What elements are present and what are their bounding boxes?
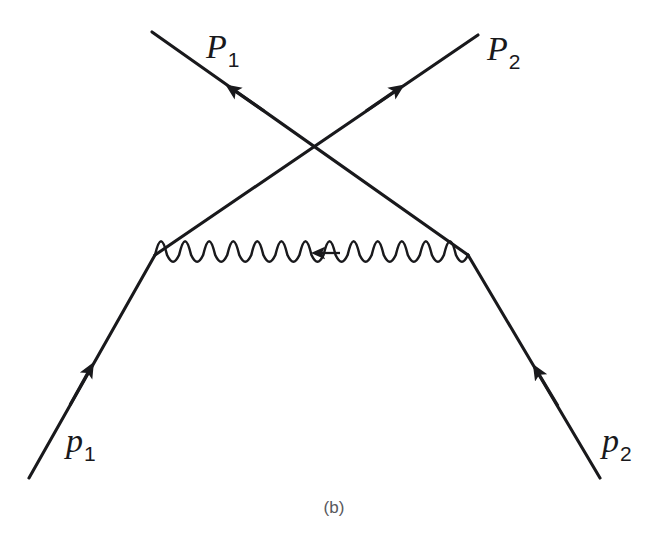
momentum-label-P2-subscript: 2 xyxy=(509,50,521,73)
momentum-label-p1-subscript: 1 xyxy=(84,442,96,465)
fermion-line-P1 xyxy=(152,32,468,255)
momentum-label-p2-base: p xyxy=(602,422,619,459)
arrowhead-p1 xyxy=(70,369,90,405)
momentum-label-P1-outgoing: P1 xyxy=(206,30,238,64)
panel-caption: (b) xyxy=(0,498,668,518)
momentum-label-P2-outgoing: P2 xyxy=(487,32,519,66)
photon-propagator xyxy=(155,241,468,262)
arrowhead-P2 xyxy=(366,89,398,111)
direction-arrowheads xyxy=(70,89,558,406)
fermion-line-p2 xyxy=(468,255,600,478)
feynman-diagram-canvas xyxy=(0,0,668,546)
momentum-label-p1-incoming: p1 xyxy=(66,424,95,458)
fermion-lines xyxy=(29,32,600,478)
momentum-label-p1-base: p xyxy=(66,422,83,459)
momentum-label-P1-subscript: 1 xyxy=(228,48,240,71)
feynman-diagram-figure: P1 P2 p1 p2 (b) xyxy=(0,0,668,546)
arrowhead-P1 xyxy=(232,89,264,111)
momentum-label-P2-base: P xyxy=(487,30,508,67)
arrowhead-p2 xyxy=(537,371,558,406)
momentum-label-P1-base: P xyxy=(206,28,227,65)
momentum-label-p2-incoming: p2 xyxy=(602,424,631,458)
momentum-label-p2-subscript: 2 xyxy=(620,442,632,465)
photon-wave-path xyxy=(155,241,468,262)
